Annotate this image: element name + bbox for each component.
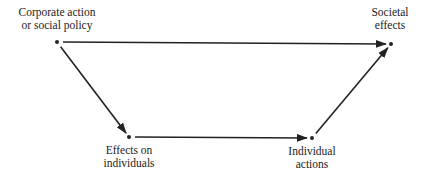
- node-label-effects-on-individuals: Effects on individuals: [94, 144, 164, 170]
- edge-corporate-to-societal: [63, 42, 386, 44]
- edge-effects_individuals-to-individual_actions: [135, 137, 307, 138]
- node-label-societal-effects: Societal effects: [358, 6, 422, 32]
- edge-individual_actions-to-societal: [316, 48, 388, 134]
- label-line: effects: [358, 19, 422, 32]
- diagram-canvas: Corporate action or social policy Societ…: [0, 0, 422, 176]
- node-label-individual-actions: Individual actions: [277, 145, 347, 171]
- node-dot-effects_individuals: [127, 135, 131, 139]
- edge-corporate-to-effects_individuals: [61, 47, 126, 133]
- node-dot-societal: [389, 42, 393, 46]
- label-line: Individual: [277, 145, 347, 158]
- label-line: individuals: [94, 157, 164, 170]
- node-dot-individual_actions: [310, 136, 314, 140]
- label-line: Corporate action: [7, 6, 107, 19]
- label-line: or social policy: [7, 19, 107, 32]
- node-label-corporate-action: Corporate action or social policy: [7, 6, 107, 32]
- node-dot-corporate: [55, 40, 59, 44]
- label-line: Societal: [358, 6, 422, 19]
- label-line: Effects on: [94, 144, 164, 157]
- label-line: actions: [277, 158, 347, 171]
